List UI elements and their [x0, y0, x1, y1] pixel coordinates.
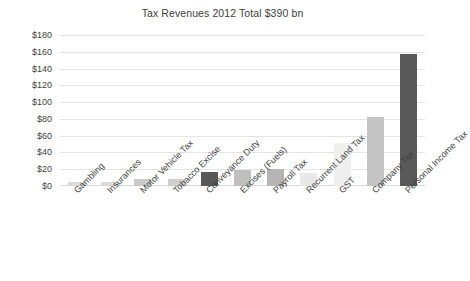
y-axis-tick-label: $120: [32, 81, 52, 90]
chart-title: Tax Revenues 2012 Total $390 bn: [0, 7, 445, 19]
y-axis: $180$160$140$120$100$80$60$40$20$0: [0, 35, 56, 186]
y-axis-tick-label: $20: [37, 165, 52, 174]
y-axis-tick-label: $0: [42, 182, 52, 191]
y-axis-tick-label: $140: [32, 64, 52, 73]
y-axis-tick-label: $100: [32, 98, 52, 107]
y-axis-tick-label: $80: [37, 114, 52, 123]
y-axis-tick-label: $60: [37, 131, 52, 140]
y-axis-tick-label: $40: [37, 148, 52, 157]
y-axis-tick-label: $180: [32, 31, 52, 40]
y-axis-tick-label: $160: [32, 47, 52, 56]
x-axis: GamblingInsurancesMotor Vehicle TaxTobac…: [60, 188, 425, 281]
